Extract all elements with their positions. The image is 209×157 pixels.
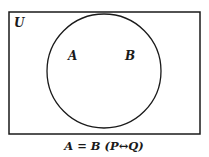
universe-rectangle <box>9 12 200 134</box>
set-label-a: A <box>67 49 77 63</box>
set-label-b: B <box>124 49 135 63</box>
set-circle-a-equals-b <box>47 14 161 128</box>
caption: A = B (P↔Q) <box>63 139 143 153</box>
venn-diagram: U A B A = B (P↔Q) <box>0 0 209 157</box>
universe-label: U <box>14 16 26 30</box>
